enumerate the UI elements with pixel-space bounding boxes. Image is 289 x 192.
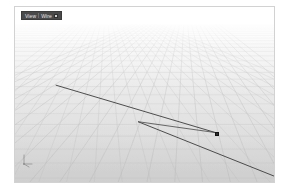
viewport-scene[interactable]: View Wire	[15, 7, 274, 182]
perspective-grid	[15, 7, 274, 182]
gizmo-axes	[24, 155, 32, 167]
grid-lines-group	[15, 25, 274, 182]
axis-orientation-gizmo[interactable]	[20, 152, 38, 168]
viewport-3d[interactable]: View Wire	[14, 6, 275, 183]
gizmo-origin-dot	[23, 163, 25, 165]
selected-vertex-handle[interactable]	[215, 132, 219, 136]
shading-menu[interactable]: Wire	[41, 13, 52, 19]
app-root: View Wire	[0, 0, 289, 192]
display-toggle-icon[interactable]	[54, 14, 58, 18]
toolbar-divider	[38, 13, 39, 18]
view-menu[interactable]: View	[25, 13, 36, 19]
viewport-header-chip[interactable]: View Wire	[21, 11, 62, 20]
horizon-haze	[15, 25, 274, 182]
